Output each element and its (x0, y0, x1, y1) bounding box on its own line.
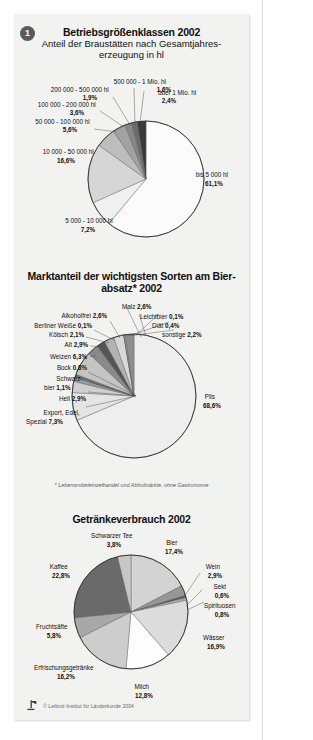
figure-sheet: 1 Betriebsgrößenklassen 2002 Anteil der … (14, 14, 249, 720)
pie-svg-2: Malz 2,6% Leichtbier 0,1% Diät 0,4% sons… (14, 264, 249, 507)
pie3-label-bier: Bier 17,4% (165, 531, 183, 556)
pie2-label-berliner-weisse: Berliner Weiße 0,1% (34, 322, 92, 330)
chart-panel-biersorten: Marktanteil der wichtigsten Sorten am Bi… (14, 264, 249, 507)
pie3-label-kaffee: Kaffee 22,8% (50, 555, 73, 580)
infographic-page: 1 Betriebsgrößenklassen 2002 Anteil der … (0, 0, 313, 740)
pie2-label-malz: Malz 2,6% (122, 303, 152, 311)
pie3-label-erfrischungsgetraenke: Erfrischungsgetränke 16,2% (34, 656, 98, 681)
pie3-slices (74, 555, 188, 669)
pie-chart-getraenkeverbrauch: Schwarzer Tee 3,8% Bier 17,4% Wein 2,9% … (14, 507, 249, 720)
pie2-label-diaet: Diät 0,4% (152, 322, 180, 330)
page-margin-rule (262, 0, 263, 740)
pie2-label-koelsch: Kölsch 2,1% (49, 331, 84, 339)
pie2-label-alkoholfrei: Alkoholfrei 2,6% (61, 312, 107, 320)
pie-chart-betriebsgroessenklassen: 500 000 - 1 Mio. hl 1,6% über 1 Mio. hl … (14, 14, 249, 264)
chart-panel-betriebsgroessenklassen: Betriebsgrößenklassen 2002 Anteil der Br… (14, 14, 249, 264)
pie2-label-pils: Pils 68,6% (203, 385, 221, 410)
pie1-label-10000-50000: 10 000 - 50 000 hl 16,6% (43, 140, 98, 165)
pie1-label-200000-500000: 200 000 - 500 000 hl 1,9% (51, 78, 113, 102)
pie2-label-alt: Alt 2,9% (65, 341, 89, 349)
panel2-footnote: * Lebensmitteleinzelhandel und Abholmärk… (14, 482, 249, 488)
leibniz-ifl-logo-icon (26, 699, 39, 712)
copyright-credit: © Leibniz-Institut für Länderkunde 2004 (26, 699, 134, 712)
copyright-text: © Leibniz-Institut für Länderkunde 2004 (43, 703, 134, 709)
pie3-label-waesser: Wässer 16,9% (203, 626, 229, 651)
pie-chart-biersorten: Malz 2,6% Leichtbier 0,1% Diät 0,4% sons… (14, 264, 249, 507)
pie1-label-50000-100000: 50 000 - 100 000 hl 5,6% (35, 110, 94, 134)
pie3-label-fruchtsaefte: Fruchtsäfte 5,8% (36, 615, 72, 640)
pie3-label-wein: Wein 2,9% (206, 555, 225, 580)
pie2-label-sonstige: sonstige 2,2% (162, 331, 202, 339)
pie-svg-1: 500 000 - 1 Mio. hl 1,6% über 1 Mio. hl … (14, 14, 249, 264)
pie2-label-leichtbier: Leichtbier 0,1% (140, 313, 184, 321)
chart-panel-getraenkeverbrauch: Getränkeverbrauch 2002 Schwarzer Tee 3,8… (14, 507, 249, 720)
pie3-label-schwarzer-tee: Schwarzer Tee 3,8% (91, 524, 137, 549)
pie3-label-milch: Milch 12,8% (134, 675, 153, 700)
pie2-label-weizen: Weizen 6,3% (50, 353, 87, 361)
pie-svg-3: Schwarzer Tee 3,8% Bier 17,4% Wein 2,9% … (14, 507, 249, 720)
